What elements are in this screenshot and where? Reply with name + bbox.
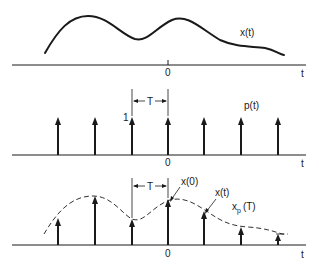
impulse — [92, 117, 98, 155]
period-dimension: T — [132, 89, 168, 116]
signal-label-subscript: p — [237, 207, 241, 215]
annotation-x0-label: x(0) — [181, 176, 198, 187]
panel-continuous-signal: x(t) 0 t — [12, 16, 306, 79]
sample-impulse — [165, 199, 171, 245]
impulse — [55, 117, 61, 155]
impulse-height-label: 1 — [123, 112, 129, 123]
sampling-diagram: x(t) 0 t T 1 p(t) 0 t — [0, 0, 319, 269]
sample-impulse — [201, 211, 207, 245]
sample-impulse — [92, 196, 98, 245]
sample-impulse — [238, 227, 244, 245]
origin-label: 0 — [165, 67, 171, 78]
panel-sampled-signal: T x(0) x(t) xp(T) 0 t — [12, 176, 306, 260]
impulse — [238, 117, 244, 155]
origin-label: 0 — [165, 157, 171, 168]
impulse — [165, 117, 171, 155]
annotation-x0: x(0) — [170, 176, 198, 202]
sample-impulse — [129, 219, 135, 245]
annotation-xt-label: x(t) — [215, 187, 229, 198]
impulse — [201, 117, 207, 155]
signal-label: p(t) — [244, 100, 259, 111]
impulse — [129, 117, 135, 155]
signal-label: xp(T) — [232, 201, 256, 215]
period-dimension: T — [132, 178, 168, 218]
origin-label: 0 — [165, 248, 171, 259]
axis-label: t — [301, 249, 304, 260]
signal-label-suffix: (T) — [243, 201, 256, 212]
signal-label: x(t) — [240, 27, 254, 38]
axis-label: t — [301, 68, 304, 79]
sample-impulse — [275, 234, 281, 245]
panel-impulse-train: T 1 p(t) 0 t — [12, 89, 306, 169]
impulse — [275, 117, 281, 155]
period-label: T — [147, 181, 153, 192]
axis-label: t — [301, 158, 304, 169]
sample-impulse — [55, 218, 61, 245]
annotation-xt: x(t) — [205, 187, 229, 214]
period-label: T — [147, 96, 153, 107]
